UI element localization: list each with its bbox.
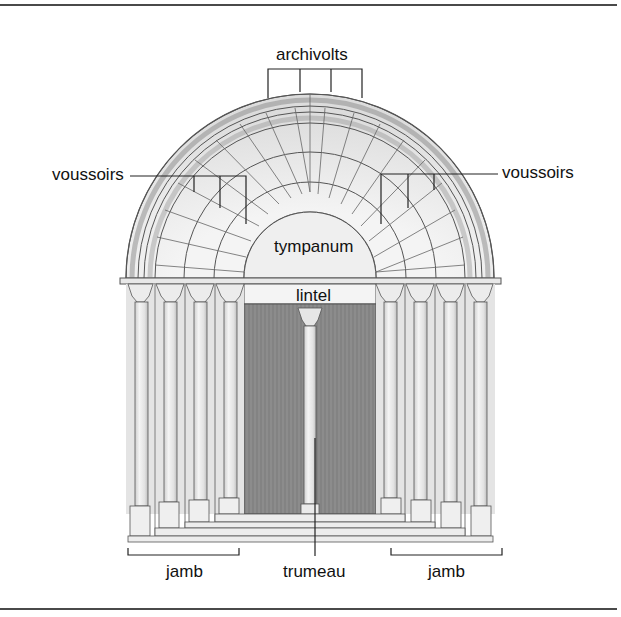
portal-diagram [0, 0, 621, 617]
impost-band [120, 278, 501, 284]
bottom-rule [0, 608, 617, 610]
label-trumeau: trumeau [283, 563, 345, 580]
label-jamb-left: jamb [166, 563, 203, 580]
label-lintel: lintel [296, 287, 331, 304]
label-archivolts: archivolts [276, 46, 348, 63]
label-voussoirs-left: voussoirs [52, 166, 124, 183]
left-jamb-columns [126, 284, 244, 536]
label-voussoirs-right: voussoirs [502, 164, 574, 181]
label-tympanum: tympanum [274, 238, 353, 255]
steps [128, 514, 493, 542]
label-jamb-right: jamb [428, 563, 465, 580]
right-jamb-columns [376, 284, 495, 536]
